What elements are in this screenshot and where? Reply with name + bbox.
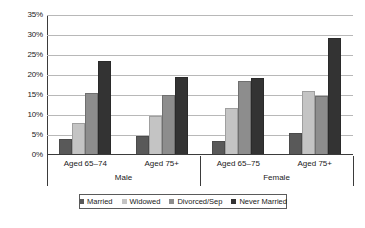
legend-swatch-icon <box>122 199 127 204</box>
y-axis-tick-35: 35% <box>0 11 43 19</box>
plot-area <box>47 15 353 155</box>
bar-married <box>289 133 302 155</box>
chart-legend: MarriedWidowedDivorced/SepNever Married <box>79 194 287 209</box>
category-label: Aged 65–75 <box>200 158 277 172</box>
y-axis-tick-0: 0% <box>0 151 43 159</box>
bar-never-married <box>98 61 111 155</box>
bar-widowed <box>72 123 85 155</box>
bar-married <box>59 139 72 155</box>
category-label: Aged 75+ <box>124 158 201 172</box>
legend-item-never-married[interactable]: Never Married <box>231 198 287 206</box>
y-axis-tick-10: 10% <box>0 111 43 119</box>
bar-divorced-sep <box>315 96 328 155</box>
legend-label: Married <box>87 198 112 206</box>
bar-married <box>212 141 225 155</box>
y-axis-tick-5: 5% <box>0 131 43 139</box>
bar-group <box>277 15 354 155</box>
category-group: Aged 65–74Aged 75+ <box>47 158 200 172</box>
y-axis-tick-20: 20% <box>0 71 43 79</box>
bar-group <box>124 15 201 155</box>
bar-divorced-sep <box>162 95 175 155</box>
bar-never-married <box>251 78 264 155</box>
bar-groups <box>47 15 353 155</box>
bar-never-married <box>175 77 188 155</box>
bar-widowed <box>225 108 238 155</box>
bar-group <box>200 15 277 155</box>
legend-item-married[interactable]: Married <box>79 198 112 206</box>
axis-separator <box>200 156 201 186</box>
group-label-male: Male <box>47 172 200 186</box>
category-label: Aged 75+ <box>277 158 354 172</box>
legend-item-divorced-sep[interactable]: Divorced/Sep <box>169 198 222 206</box>
legend-label: Never Married <box>239 198 287 206</box>
x-axis-line <box>47 154 353 155</box>
bar-chart: 0%5%10%15%20%25%30%35% Aged 65–74Aged 75… <box>0 0 365 228</box>
legend-swatch-icon <box>169 199 174 204</box>
legend-label: Divorced/Sep <box>177 198 222 206</box>
axis-separator <box>47 156 48 186</box>
bar-married <box>136 136 149 155</box>
legend-swatch-icon <box>231 199 236 204</box>
bar-group <box>47 15 124 155</box>
y-axis-tick-25: 25% <box>0 51 43 59</box>
bar-divorced-sep <box>85 93 98 155</box>
y-axis-tick-15: 15% <box>0 91 43 99</box>
bar-widowed <box>149 116 162 155</box>
bar-widowed <box>302 91 315 155</box>
bar-divorced-sep <box>238 81 251 155</box>
legend-swatch-icon <box>79 199 84 204</box>
category-label: Aged 65–74 <box>47 158 124 172</box>
supergroup-female <box>200 15 353 155</box>
legend-item-widowed[interactable]: Widowed <box>122 198 161 206</box>
category-group: Aged 65–75Aged 75+ <box>200 158 353 172</box>
y-axis-tick-30: 30% <box>0 31 43 39</box>
axis-separator <box>353 156 354 186</box>
legend-label: Widowed <box>130 198 161 206</box>
group-label-female: Female <box>200 172 353 186</box>
supergroup-male <box>47 15 200 155</box>
bar-never-married <box>328 38 341 155</box>
